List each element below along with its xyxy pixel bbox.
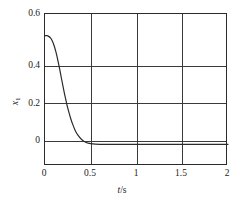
x-tick-label-1.5: 1.5 (175, 169, 187, 179)
chart-figure: 0.6 0.4 0.2 0 x1 0 0.5 1 1.5 2 t/s (0, 0, 244, 204)
y-axis-title-subscript: 1 (14, 98, 22, 102)
x-tick-label-0: 0 (42, 169, 47, 179)
y-tick-label-0.6: 0.6 (28, 9, 40, 19)
y-tick-label-0.2: 0.2 (28, 99, 40, 109)
y-axis-title: x1 (10, 81, 23, 121)
y-tick-label-0: 0 (35, 136, 40, 146)
series-curve-x1 (45, 14, 228, 166)
x-tick-label-2: 2 (225, 169, 230, 179)
series-path-x1 (45, 36, 228, 145)
x-axis-title-unit: /s (120, 185, 126, 195)
x-tick-label-1: 1 (134, 169, 139, 179)
y-axis-title-variable: x (10, 101, 20, 105)
plot-area (44, 13, 227, 165)
y-tick-label-0.4: 0.4 (28, 61, 40, 71)
x-axis-title: t/s (0, 185, 244, 195)
x-tick-label-0.5: 0.5 (84, 169, 96, 179)
